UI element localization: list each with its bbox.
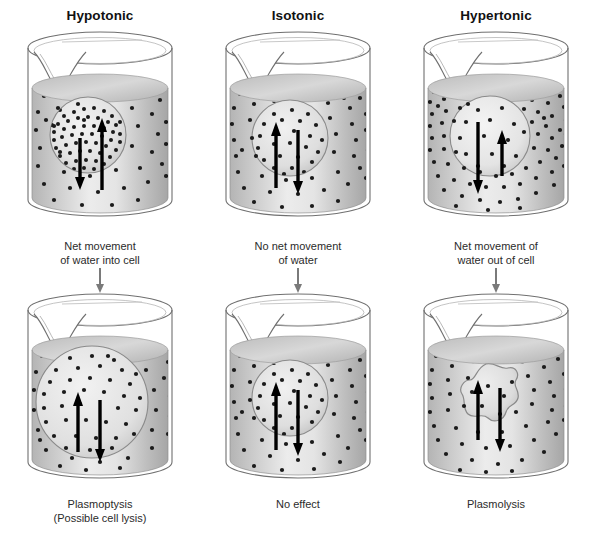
connector-arrow-hypotonic [93, 268, 107, 294]
caption-line-1: No net movement [255, 240, 342, 252]
beaker-unit-hypotonic-bottom [0, 292, 200, 492]
beaker-unit-isotonic-bottom [198, 292, 398, 492]
caption-line-1: Net movement [64, 240, 136, 252]
caption-line-2: (Possible cell lysis) [0, 512, 205, 526]
beaker-isotonic-bottom [218, 292, 378, 492]
connector-arrow-hypertonic [489, 268, 503, 294]
caption-hypotonic-bottom: Plasmoptysis (Possible cell lysis) [0, 498, 205, 525]
beaker-hypertonic-bottom [416, 292, 576, 492]
caption-isotonic-middle: No net movement of water [193, 240, 403, 267]
beaker-hypotonic-top [20, 30, 180, 230]
caption-line-1: Net movement of [454, 240, 538, 252]
beaker-unit-hypertonic-top [396, 30, 596, 230]
column-title-hypertonic: Hypertonic [396, 8, 596, 23]
column-title-isotonic: Isotonic [198, 8, 398, 23]
beaker-unit-isotonic-top [198, 30, 398, 230]
caption-isotonic-bottom: No effect [193, 498, 403, 512]
connector-arrow-isotonic [291, 268, 305, 294]
caption-line-2: of water [193, 254, 403, 268]
beaker-unit-hypotonic-top [0, 30, 200, 230]
caption-line-1: Plasmolysis [467, 498, 525, 510]
beaker-hypotonic-bottom [20, 292, 180, 492]
caption-line-2: water out of cell [391, 254, 597, 268]
beaker-unit-hypertonic-bottom [396, 292, 596, 492]
caption-hypertonic-middle: Net movement of water out of cell [391, 240, 597, 267]
caption-hypotonic-middle: Net movement of water into cell [0, 240, 205, 267]
osmosis-diagram: Hypotonic Isotonic Hypertonic [0, 0, 597, 535]
caption-line-1: Plasmoptysis [68, 498, 133, 510]
caption-hypertonic-bottom: Plasmolysis [391, 498, 597, 512]
beaker-hypertonic-top [416, 30, 576, 230]
beaker-isotonic-top [218, 30, 378, 230]
caption-line-1: No effect [276, 498, 320, 510]
caption-line-2: of water into cell [0, 254, 205, 268]
column-title-hypotonic: Hypotonic [0, 8, 200, 23]
